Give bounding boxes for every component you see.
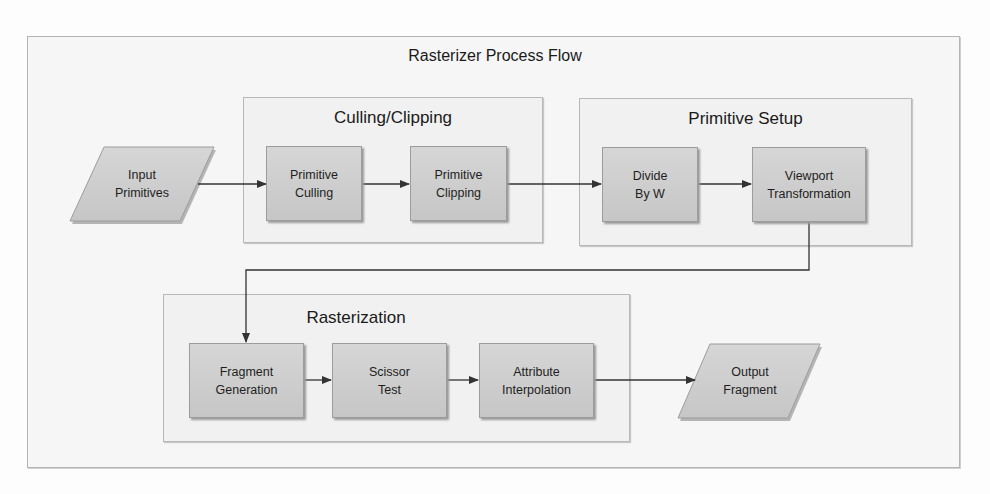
step-line2: Culling [290, 184, 338, 202]
step-line1: Fragment [216, 363, 278, 381]
step-primitive-culling: PrimitiveCulling [266, 146, 362, 221]
step-line2: Transformation [767, 185, 851, 203]
step-divide-by-w: DivideBy W [602, 147, 698, 222]
output-line2: Fragment [690, 381, 810, 399]
arrow-viewport-to-fragment [246, 222, 809, 342]
input-primitives-label: Input Primitives [82, 166, 202, 202]
step-attribute-interpolation: AttributeInterpolation [479, 343, 594, 418]
output-line1: Output [690, 363, 810, 381]
step-viewport-transformation: ViewportTransformation [752, 147, 866, 222]
step-line2: Clipping [435, 184, 483, 202]
step-line2: By W [633, 185, 668, 203]
step-line1: Divide [633, 167, 668, 185]
step-line2: Interpolation [502, 381, 571, 399]
step-line1: Primitive [290, 166, 338, 184]
step-primitive-clipping: PrimitiveClipping [410, 146, 507, 221]
step-line1: Primitive [435, 166, 483, 184]
step-line1: Viewport [767, 167, 851, 185]
step-scissor-test: ScissorTest [332, 343, 447, 418]
step-line1: Scissor [369, 363, 410, 381]
step-line1: Attribute [502, 363, 571, 381]
input-line1: Input [82, 166, 202, 184]
output-fragment-label: Output Fragment [690, 363, 810, 399]
step-line2: Test [369, 381, 410, 399]
input-line2: Primitives [82, 184, 202, 202]
step-line2: Generation [216, 381, 278, 399]
step-fragment-generation: FragmentGeneration [189, 343, 304, 418]
connectors-layer [0, 0, 990, 494]
